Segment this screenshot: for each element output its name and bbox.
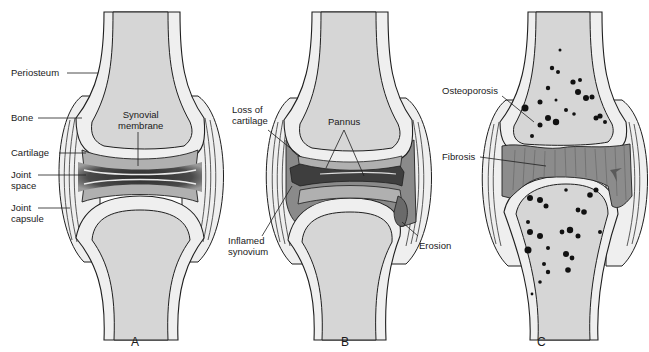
panel-a-normal-joint	[38, 12, 224, 340]
label-inflamed-synovium-line2: synovium	[228, 246, 268, 257]
label-joint-space-line2: space	[11, 180, 36, 191]
label-synovial-membrane-line2: membrane	[118, 120, 163, 131]
panel-c-fibrosed-joint	[480, 12, 648, 340]
panel-b-inflamed-joint	[262, 12, 432, 340]
rheumatoid-arthritis-joint-diagram	[0, 0, 649, 352]
label-joint-capsule-line1: Joint	[11, 202, 44, 213]
label-synovial-membrane-line1: Synovial	[118, 109, 163, 120]
label-pannus: Pannus	[328, 116, 360, 127]
panel-letter-c: C	[537, 335, 546, 349]
label-joint-capsule: Joint capsule	[11, 202, 44, 224]
label-bone: Bone	[11, 112, 33, 123]
label-loss-of-cartilage-line2: cartilage	[232, 115, 268, 126]
label-inflamed-synovium-line1: Inflamed	[228, 235, 268, 246]
label-periosteum: Periosteum	[11, 67, 59, 78]
label-osteoporosis: Osteoporosis	[442, 85, 498, 96]
label-loss-of-cartilage-line1: Loss of	[232, 104, 268, 115]
panel-letter-a: A	[131, 335, 139, 349]
label-loss-of-cartilage: Loss of cartilage	[232, 104, 268, 126]
label-erosion: Erosion	[419, 240, 451, 251]
panel-letter-b: B	[341, 335, 349, 349]
label-synovial-membrane: Synovial membrane	[118, 109, 163, 131]
label-joint-space-line1: Joint	[11, 169, 36, 180]
label-fibrosis: Fibrosis	[442, 151, 475, 162]
label-joint-space: Joint space	[11, 169, 36, 191]
label-inflamed-synovium: Inflamed synovium	[228, 235, 268, 257]
label-cartilage: Cartilage	[11, 147, 49, 158]
label-joint-capsule-line2: capsule	[11, 213, 44, 224]
